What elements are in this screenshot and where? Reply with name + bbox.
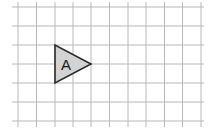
- grid-diagram: A: [0, 0, 218, 133]
- square-grid: [12, 2, 204, 127]
- triangle-label: A: [61, 56, 71, 73]
